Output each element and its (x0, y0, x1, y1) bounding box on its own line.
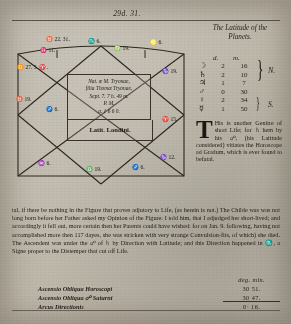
cusp-label: ♐ 6. (132, 164, 145, 170)
north-brace: } (257, 56, 264, 82)
calculation-rows: Ascensio Obliqua Horoscopi30 51.Ascensio… (12, 285, 280, 312)
latitude-row: ♂030 (199, 88, 283, 97)
latitude-degrees: 1 (213, 79, 233, 87)
latitude-degrees: 1 (213, 105, 233, 113)
south-label: S. (268, 100, 274, 109)
cusp-label: ♑ 19. (162, 68, 177, 74)
nativity-inscription-box: Nat. œ M. Tryonae, filia Thomæ Tryonae, … (67, 74, 151, 120)
latitude-degrees: 2 (213, 62, 233, 70)
nativity-line1: Nat. œ M. Tryonae, (68, 78, 150, 85)
col-header-degrees: d. (213, 54, 233, 62)
calculation-block: deg. min. Ascensio Obliqua Horoscopi30 5… (12, 276, 280, 312)
latitudes-heading: The Latitude of the Planets. (196, 24, 284, 42)
cusp-label: ♏ 6. (88, 38, 101, 44)
cusp-label: ♉ 19. (16, 96, 31, 102)
bottom-rule (12, 310, 280, 311)
cusp-label: ♎ 19. (86, 166, 101, 172)
horoscope-chart: ♉ 22. 31.♓ 11.♏ 6.♍ 19.♌ 6.♊ 27. 5. ♈.♉ … (10, 24, 192, 202)
latitude-minutes: 10 (233, 71, 255, 79)
latitudes-heading-line2: Planets. (196, 33, 284, 42)
calculation-row: Ascensio Obliqua ☍ Saturni30 47. (12, 294, 280, 303)
latitude-degrees: 2 (213, 71, 233, 79)
cusp-label: ♐ 6. (46, 106, 59, 112)
latitude-degrees: 2 (213, 96, 233, 104)
calculation-value: 30 47. (223, 294, 280, 302)
cusp-label: ♓ 11. (40, 47, 55, 53)
cusp-label: ♊ 27. 5. ♈. (17, 64, 48, 70)
cusp-label: ♉ 22. 31. (46, 36, 70, 42)
drop-cap: T (196, 120, 213, 139)
latitude-minutes: 34 (233, 96, 255, 104)
calculation-label: Arcus Directionis (12, 303, 223, 310)
south-brace: } (256, 96, 260, 112)
cusp-label: ♈ 15. (162, 116, 177, 122)
latitude-row: ♃17 (199, 79, 283, 88)
north-label: N. (268, 66, 275, 75)
cusp-label: ♒ 6. (38, 160, 51, 166)
calculation-value: 30 51. (223, 285, 280, 292)
calc-header-degmin: deg. min. (223, 276, 280, 283)
nativity-line2: filia Thomæ Tryonae, (68, 85, 150, 92)
calculation-value: 0· 16. (223, 303, 280, 310)
body-paragraph: tal, if there be nothing in the Figure t… (12, 206, 280, 255)
calculation-label: Ascensio Obliqua ☍ Saturni (12, 294, 223, 301)
calculation-label: Ascensio Obliqua Horoscopi (12, 285, 223, 292)
latitude-minutes: 16 (233, 62, 255, 70)
nativity-line4: P. M. (68, 100, 150, 107)
calc-header-row: deg. min. (12, 276, 280, 285)
planet-symbol-mercury: ☿ (199, 105, 213, 114)
latitude-degrees: 0 (213, 88, 233, 96)
cusp-label: ♌ 6. (150, 39, 163, 45)
latitude-minutes: 7 (233, 79, 255, 87)
latitude-minutes: 30 (233, 88, 255, 96)
cusp-label: ♍ 19. (114, 45, 129, 51)
nativity-line5: ɑ. 1 6 6 0. (68, 108, 150, 115)
nativity-line3: Sept. 7. 7 h. 49 m. (68, 93, 150, 100)
latitude-table-header: d. m. (199, 54, 283, 62)
chart-latitude-label: Latit. Londini. (67, 120, 153, 141)
top-degree-number: 29d. 31. (92, 9, 162, 18)
article-column: THis is another Genitre of short Life; f… (196, 120, 282, 164)
cusp-label: ♑ 12. (160, 154, 175, 160)
top-rule (12, 20, 280, 21)
latitude-minutes: 50 (233, 105, 255, 113)
col-header-minutes: m. (233, 54, 255, 62)
document-page: 29d. 31. The Latitude of the Planets. d.… (0, 0, 291, 324)
calculation-row: Ascensio Obliqua Horoscopi30 51. (12, 285, 280, 294)
latitudes-heading-line1: The Latitude of the (196, 24, 284, 33)
